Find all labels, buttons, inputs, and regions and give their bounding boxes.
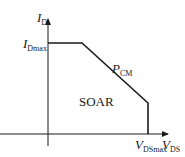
soar-region-label: SOAR bbox=[79, 95, 114, 108]
x-axis-label: VDS bbox=[162, 138, 180, 154]
pcm-label: PCM bbox=[112, 62, 132, 78]
soa-boundary bbox=[48, 43, 148, 134]
id-max-label: IDmax bbox=[23, 37, 47, 53]
y-axis-label: ID bbox=[37, 11, 47, 27]
soa-diagram: ID IDmax PCM SOAR VDSmax VDS bbox=[0, 0, 185, 157]
soa-plot bbox=[0, 0, 185, 157]
